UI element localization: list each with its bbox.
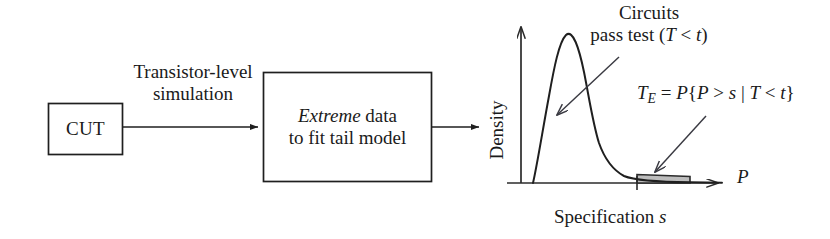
- block-cut-label: CUT: [48, 103, 123, 155]
- plot-x-axis-label: P: [737, 166, 749, 188]
- plot-y-axis-label: Density: [486, 100, 508, 159]
- annotation-circuits-var-T: T: [665, 24, 676, 45]
- edge-label-transistor-level-simulation: Transistor-level simulation: [126, 61, 260, 105]
- formula-close-brace: }: [786, 82, 795, 103]
- block-extreme-data-label: Extreme data to fit tail model: [263, 72, 432, 182]
- plot-spec-var-s: s: [659, 206, 666, 227]
- edge-label-line2: simulation: [126, 83, 260, 105]
- annotation-circuits-pre: pass test (: [590, 24, 665, 45]
- formula-lhs-subscript-E: E: [648, 91, 656, 106]
- annotation-test-escape-formula: TE = P{P > s | T < t}: [637, 82, 795, 107]
- block-extreme-data-lines: Extreme data to fit tail model: [289, 105, 407, 149]
- block-extreme-data-emph: Extreme: [298, 105, 361, 126]
- leader-circuits-pass-test: [557, 57, 619, 115]
- block-cut-text: CUT: [66, 118, 105, 140]
- leader-test-escape: [655, 116, 706, 172]
- plot-x-axis-caption: Specification s: [554, 206, 666, 228]
- formula-var-T: T: [749, 82, 760, 103]
- block-extreme-data-rest: data: [361, 105, 397, 126]
- figure-root: CUT Extreme data to fit tail model Trans…: [0, 0, 830, 239]
- formula-open-brace: {: [688, 82, 697, 103]
- formula-var-s: s: [729, 82, 736, 103]
- formula-condition-bar: |: [736, 82, 749, 103]
- annotation-circuits-op: <: [676, 24, 696, 45]
- formula-prob-P: P: [676, 82, 688, 103]
- annotation-circuits-line2: pass test (T < t): [556, 24, 742, 46]
- formula-op-gt: >: [709, 82, 729, 103]
- density-curve: [533, 34, 722, 183]
- formula-var-P: P: [697, 82, 709, 103]
- block-extreme-data-line1: Extreme data: [289, 105, 407, 127]
- formula-equals: =: [656, 82, 676, 103]
- edge-label-line1: Transistor-level: [126, 61, 260, 83]
- formula-op-lt: <: [760, 82, 780, 103]
- annotation-circuits-pass-test: Circuits pass test (T < t): [556, 2, 742, 46]
- annotation-circuits-line1: Circuits: [556, 2, 742, 24]
- block-extreme-data-line2: to fit tail model: [289, 127, 407, 149]
- annotation-circuits-post: ): [701, 24, 707, 45]
- formula-lhs-T: T: [637, 82, 648, 103]
